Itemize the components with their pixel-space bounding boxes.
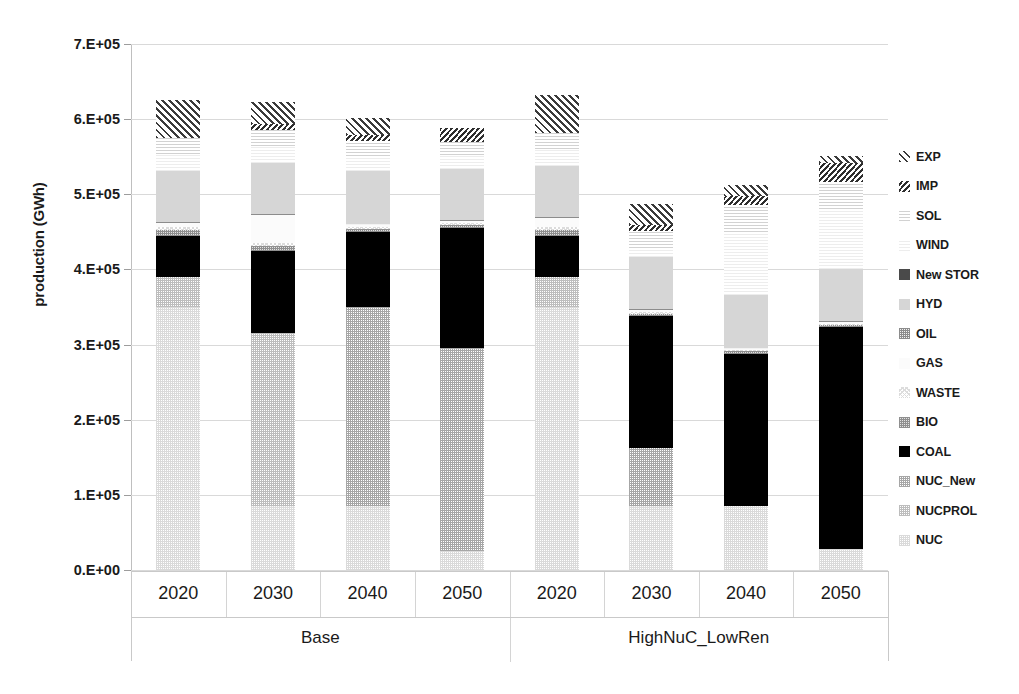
bar-segment-bio[interactable]: [819, 325, 863, 327]
bar-segment-coal[interactable]: [251, 251, 295, 334]
bar-segment-nuc[interactable]: [629, 506, 673, 570]
bar-segment-coal[interactable]: [819, 327, 863, 549]
bar-segment-oil[interactable]: [629, 309, 673, 310]
bar-segment-wind[interactable]: [724, 232, 768, 295]
bar-stack[interactable]: [724, 44, 768, 570]
bar-stack[interactable]: [629, 44, 673, 570]
legend-item-nucnew[interactable]: NUC_New: [899, 467, 1017, 497]
legend-item-nucprol[interactable]: NUCPROL: [899, 496, 1017, 526]
bar-segment-wind[interactable]: [819, 209, 863, 269]
bar-segment-hyd[interactable]: [629, 257, 673, 310]
bar-segment-bio[interactable]: [346, 229, 390, 232]
bar-segment-coal[interactable]: [724, 354, 768, 507]
legend-item-wind[interactable]: WIND: [899, 231, 1017, 261]
bar-segment-exp[interactable]: [156, 100, 200, 138]
bar-segment-coal[interactable]: [346, 232, 390, 307]
bar-segment-nucprol[interactable]: [251, 333, 295, 506]
bar-segment-sol[interactable]: [156, 138, 200, 155]
bar-segment-oil[interactable]: [156, 222, 200, 223]
bar-segment-bio[interactable]: [440, 225, 484, 228]
legend-item-nuc[interactable]: NUC: [899, 526, 1017, 556]
bar-segment-waste[interactable]: [251, 243, 295, 246]
bar-segment-hyd[interactable]: [251, 163, 295, 214]
bar-segment-coal[interactable]: [440, 228, 484, 348]
bar-segment-bio[interactable]: [724, 351, 768, 353]
bar-segment-nuc[interactable]: [251, 506, 295, 570]
bar-segment-hyd[interactable]: [440, 169, 484, 220]
bar-segment-bio[interactable]: [629, 314, 673, 316]
bar-segment-sol[interactable]: [440, 142, 484, 156]
bar-segment-hyd[interactable]: [535, 166, 579, 217]
bar-stack[interactable]: [819, 44, 863, 570]
bar-segment-oil[interactable]: [251, 214, 295, 215]
bar-segment-oil[interactable]: [440, 220, 484, 221]
bar-segment-wind[interactable]: [346, 156, 390, 171]
bar-segment-gas[interactable]: [251, 215, 295, 244]
bar-segment-exp[interactable]: [724, 185, 768, 196]
bar-stack[interactable]: [156, 44, 200, 570]
bar-segment-gas[interactable]: [346, 224, 390, 226]
bar-segment-imp[interactable]: [440, 128, 484, 142]
bar-segment-nucprol[interactable]: [156, 277, 200, 307]
bar-segment-wind[interactable]: [629, 248, 673, 257]
bar-stack[interactable]: [535, 44, 579, 570]
bar-segment-waste[interactable]: [819, 324, 863, 326]
bar-segment-gas[interactable]: [535, 218, 579, 227]
bar-segment-exp[interactable]: [819, 156, 863, 164]
bar-segment-nuc[interactable]: [440, 551, 484, 570]
bar-segment-nuc[interactable]: [156, 307, 200, 570]
bar-segment-wind[interactable]: [535, 149, 579, 166]
bar-segment-imp[interactable]: [724, 196, 768, 205]
bar-segment-nucnew[interactable]: [629, 448, 673, 507]
bar-segment-imp[interactable]: [819, 163, 863, 181]
bar-segment-oil[interactable]: [535, 217, 579, 218]
bar-segment-bio[interactable]: [535, 230, 579, 236]
bar-segment-nucnew[interactable]: [440, 348, 484, 551]
bar-segment-waste[interactable]: [440, 223, 484, 225]
bar-segment-imp[interactable]: [346, 135, 390, 141]
bar-segment-hyd[interactable]: [724, 295, 768, 348]
bar-segment-waste[interactable]: [535, 227, 579, 230]
bar-segment-oil[interactable]: [819, 321, 863, 322]
bar-segment-bio[interactable]: [156, 230, 200, 236]
legend-item-sol[interactable]: SOL: [899, 201, 1017, 231]
bar-segment-oil[interactable]: [724, 348, 768, 349]
bar-segment-coal[interactable]: [535, 236, 579, 277]
bar-segment-oil[interactable]: [346, 224, 390, 225]
bar-segment-nuc[interactable]: [535, 307, 579, 570]
legend-item-coal[interactable]: COAL: [899, 437, 1017, 467]
bar-segment-nuc[interactable]: [346, 506, 390, 570]
bar-segment-exp[interactable]: [346, 118, 390, 135]
bar-segment-sol[interactable]: [724, 205, 768, 232]
legend-item-waste[interactable]: WASTE: [899, 378, 1017, 408]
bar-segment-imp[interactable]: [629, 225, 673, 231]
bar-segment-sol[interactable]: [629, 231, 673, 248]
bar-segment-coal[interactable]: [156, 236, 200, 277]
bar-stack[interactable]: [251, 44, 295, 570]
bar-segment-gas[interactable]: [819, 322, 863, 324]
bar-segment-gas[interactable]: [724, 348, 768, 350]
bar-segment-waste[interactable]: [156, 227, 200, 230]
bar-segment-waste[interactable]: [724, 350, 768, 352]
bar-segment-gas[interactable]: [440, 221, 484, 223]
bar-segment-hyd[interactable]: [819, 269, 863, 322]
legend-item-newstor[interactable]: New STOR: [899, 260, 1017, 290]
bar-segment-wind[interactable]: [251, 146, 295, 163]
bar-segment-exp[interactable]: [535, 95, 579, 133]
bar-segment-sol[interactable]: [346, 141, 390, 156]
bar-segment-gas[interactable]: [629, 310, 673, 312]
legend-item-hyd[interactable]: HYD: [899, 290, 1017, 320]
bar-segment-sol[interactable]: [251, 130, 295, 147]
bar-segment-imp[interactable]: [251, 124, 295, 130]
bar-segment-hyd[interactable]: [156, 171, 200, 222]
bar-segment-sol[interactable]: [819, 182, 863, 209]
bar-segment-wind[interactable]: [440, 155, 484, 169]
bar-segment-nucnew[interactable]: [346, 307, 390, 506]
legend-item-gas[interactable]: GAS: [899, 349, 1017, 379]
bar-segment-bio[interactable]: [251, 246, 295, 251]
bar-segment-hyd[interactable]: [346, 171, 390, 224]
bar-segment-coal[interactable]: [629, 316, 673, 448]
bar-stack[interactable]: [440, 44, 484, 570]
bar-stack[interactable]: [346, 44, 390, 570]
bar-segment-waste[interactable]: [346, 227, 390, 229]
